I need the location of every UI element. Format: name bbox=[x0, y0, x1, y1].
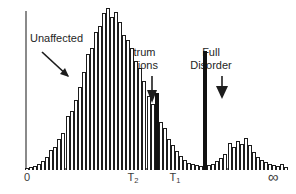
histogram-bar bbox=[284, 167, 288, 170]
histogram-bar bbox=[155, 93, 159, 170]
histogram-figure: 0T2T1∞ Unaffected Spectrum Conditions Fu… bbox=[0, 0, 296, 194]
histogram-bar bbox=[203, 51, 207, 170]
